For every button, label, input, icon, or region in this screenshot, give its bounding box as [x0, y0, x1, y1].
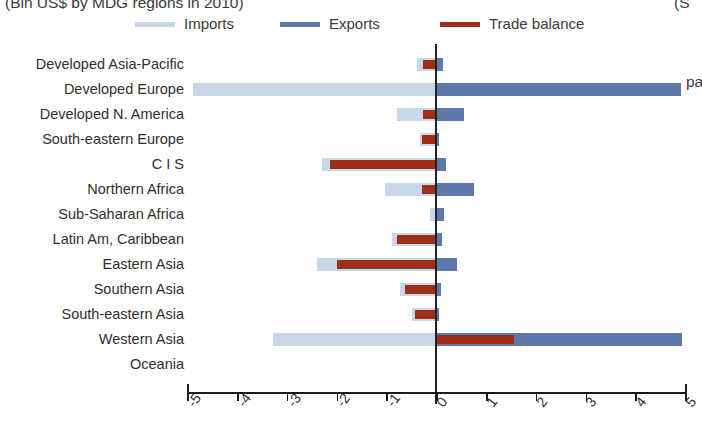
bar-exports[interactable] — [437, 158, 446, 171]
category-label: Developed Asia-Pacific — [0, 52, 184, 77]
bar-group — [188, 177, 686, 202]
bar-group — [188, 352, 686, 377]
bar-exports[interactable] — [437, 58, 443, 71]
category-label: Developed Europe — [0, 77, 184, 102]
category-label: Western Asia — [0, 327, 184, 352]
category-label: South-eastern Asia — [0, 302, 184, 327]
category-label: C I S — [0, 152, 184, 177]
bar-exports[interactable] — [437, 83, 681, 96]
plot-area — [188, 52, 686, 392]
bar-group — [188, 152, 686, 177]
bar-exports[interactable] — [437, 208, 444, 221]
line-swatch-icon — [280, 22, 320, 27]
bar-group — [188, 302, 686, 327]
category-label: Eastern Asia — [0, 252, 184, 277]
legend-item-label: Exports — [329, 14, 380, 34]
bar-exports[interactable] — [437, 308, 439, 321]
category-label: Sub-Saharan Africa — [0, 202, 184, 227]
x-axis-tick-label: 2 — [533, 394, 550, 410]
bar-exports[interactable] — [437, 108, 464, 121]
bar-trade-balance[interactable] — [405, 285, 437, 294]
category-axis-labels: Developed Asia-PacificDeveloped EuropeDe… — [0, 52, 184, 392]
bar-exports[interactable] — [437, 233, 442, 246]
bar-imports[interactable] — [193, 83, 437, 96]
line-swatch-icon — [440, 22, 480, 27]
bar-trade-balance[interactable] — [337, 260, 437, 269]
chart-title: (Bln US$ by MDG regions in 2010) — [5, 0, 425, 13]
category-label: Southern Asia — [0, 277, 184, 302]
bar-group — [188, 277, 686, 302]
category-label: Northern Africa — [0, 177, 184, 202]
chart-title-text: (Bln US$ by MDG regions in 2010) — [5, 0, 425, 13]
bar-trade-balance[interactable] — [330, 160, 437, 169]
bar-exports[interactable] — [437, 283, 441, 296]
bar-group — [188, 77, 686, 102]
bar-group — [188, 52, 686, 77]
bar-group — [188, 102, 686, 127]
bar-trade-balance[interactable] — [397, 235, 437, 244]
legend-item-label: Imports — [184, 14, 234, 34]
right-edge-annotation: pa — [686, 70, 702, 94]
x-axis-tick-label: 0 — [433, 394, 450, 410]
bar-group — [188, 327, 686, 352]
x-axis-tick-label: 3 — [582, 394, 599, 410]
bar-group — [188, 252, 686, 277]
right-edge-annotation-text: pa — [686, 70, 702, 94]
zero-axis-line — [435, 44, 437, 404]
bar-imports[interactable] — [273, 333, 437, 346]
bar-trade-balance[interactable] — [415, 310, 437, 319]
chart-legend: ImportsExportsTrade balance — [0, 14, 700, 34]
line-swatch-icon — [135, 22, 175, 27]
chart-title-right-fragment: (S — [674, 0, 698, 13]
legend-item-imports[interactable]: Imports — [135, 14, 234, 34]
bar-group — [188, 202, 686, 227]
bar-exports[interactable] — [437, 133, 439, 146]
legend-item-trade-balance[interactable]: Trade balance — [440, 14, 584, 34]
legend-item-label: Trade balance — [489, 14, 584, 34]
bar-trade-balance[interactable] — [437, 335, 514, 344]
category-label: South-eastern Europe — [0, 127, 184, 152]
x-axis-tick-label: 5 — [682, 394, 699, 410]
chart-title-right-fragment-text: (S — [674, 0, 698, 13]
bar-group — [188, 227, 686, 252]
category-label: Developed N. America — [0, 102, 184, 127]
bar-exports[interactable] — [437, 183, 474, 196]
bar-group — [188, 127, 686, 152]
category-label: Latin Am, Caribbean — [0, 227, 184, 252]
bar-exports[interactable] — [437, 258, 457, 271]
category-label: Oceania — [0, 352, 184, 377]
x-axis-tick-label: 4 — [632, 394, 649, 410]
legend-item-exports[interactable]: Exports — [280, 14, 380, 34]
x-axis-tick-label: 1 — [483, 394, 500, 410]
